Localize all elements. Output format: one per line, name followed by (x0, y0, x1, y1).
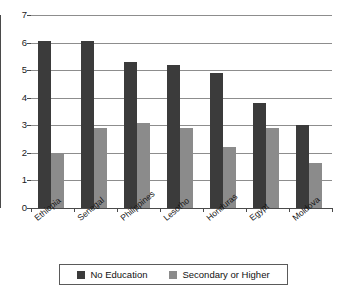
legend-item-no-education: No Education (77, 270, 147, 280)
y-tick-label: 3 (22, 121, 27, 131)
y-axis-line (0, 15, 1, 208)
y-tick-mark (27, 153, 31, 154)
legend-swatch-icon (169, 271, 177, 279)
legend-label: Secondary or Higher (182, 270, 269, 280)
y-tick-label: 7 (22, 10, 27, 20)
y-tick-mark (27, 15, 31, 16)
x-tick-mark (160, 208, 161, 212)
x-tick-mark (289, 208, 290, 212)
y-tick-label: 0 (22, 203, 27, 213)
y-tick-label: 2 (22, 148, 27, 158)
x-tick-mark (246, 208, 247, 212)
bar-philippines-no-education (124, 62, 137, 208)
gridline (31, 43, 332, 44)
y-tick-label: 1 (22, 176, 27, 186)
gridline (31, 98, 332, 99)
y-tick-mark (27, 180, 31, 181)
plot-area: 01234567 (31, 15, 332, 208)
x-tick-mark (74, 208, 75, 212)
gridline (31, 70, 332, 71)
bar-egypt-secondary-or-higher (266, 128, 279, 208)
x-tick-mark (117, 208, 118, 212)
legend-swatch-icon (77, 271, 85, 279)
y-tick-mark (27, 43, 31, 44)
y-tick-mark (27, 98, 31, 99)
y-tick-label: 5 (22, 65, 27, 75)
bar-egypt-no-education (253, 103, 266, 208)
bar-senegal-no-education (81, 41, 94, 208)
bar-honduras-no-education (210, 73, 223, 208)
y-tick-label: 6 (22, 38, 27, 48)
legend-label: No Education (90, 270, 147, 280)
gridline (31, 125, 332, 126)
y-tick-mark (27, 70, 31, 71)
bar-lesotho-no-education (167, 65, 180, 208)
chart-legend: No Education Secondary or Higher (59, 264, 288, 285)
bar-moldova-no-education (296, 125, 309, 208)
bar-ethiopia-no-education (38, 41, 51, 208)
x-tick-mark (332, 208, 333, 212)
gridline (31, 15, 332, 16)
x-tick-mark (31, 208, 32, 212)
x-tick-mark (203, 208, 204, 212)
y-tick-label: 4 (22, 93, 27, 103)
legend-item-secondary-or-higher: Secondary or Higher (169, 270, 269, 280)
bar-chart: 01234567 EthiopiaSenegalPhilippinesLesot… (0, 0, 347, 297)
y-tick-mark (27, 125, 31, 126)
